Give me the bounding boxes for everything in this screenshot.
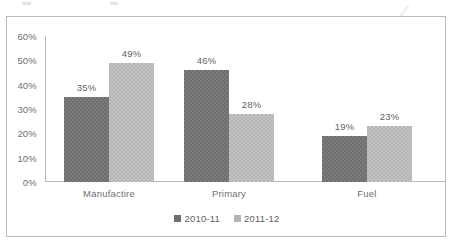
legend-item-2010-11[interactable]: 2010-11 — [174, 213, 220, 224]
y-axis-tick: 50% — [17, 55, 37, 66]
y-axis-tick: 0% — [23, 177, 37, 188]
y-axis-tick-labels: 60% 50% 40% 30% 20% 10% 0% — [7, 36, 43, 182]
category-label-manufactire: Manufactire — [83, 188, 135, 199]
bar-group-manufactire: 35% 49% — [64, 36, 154, 182]
bar-primary-2011-12[interactable]: 28% — [229, 114, 274, 182]
text-fragment-artifact — [22, 2, 31, 5]
plot-area: 35% 49% 46% 28% — [45, 36, 407, 182]
bar-primary-2010-11[interactable]: 46% — [184, 70, 229, 182]
chart-legend: 2010-11 2011-12 — [7, 213, 447, 224]
y-axis-tick: 30% — [17, 104, 37, 115]
bar-value-label: 49% — [122, 48, 142, 59]
y-axis-tick: 60% — [17, 31, 37, 42]
bar-fuel-2010-11[interactable]: 19% — [322, 136, 367, 182]
category-label-fuel: Fuel — [357, 188, 376, 199]
legend-swatch-icon — [234, 215, 241, 222]
legend-label: 2010-11 — [184, 213, 220, 224]
legend-label: 2011-12 — [244, 213, 280, 224]
bar-value-label: 46% — [197, 55, 217, 66]
bar-value-label: 19% — [335, 121, 355, 132]
x-axis-category-labels: Manufactire Primary Fuel — [46, 188, 407, 206]
bar-group-fuel: 19% 23% — [322, 36, 412, 182]
legend-swatch-icon — [174, 215, 181, 222]
y-axis-tick: 20% — [17, 128, 37, 139]
y-axis-tick: 10% — [17, 152, 37, 163]
scan-artifact-top — [0, 0, 453, 14]
bar-manufactire-2011-12[interactable]: 49% — [109, 63, 154, 182]
bar-group-primary: 46% 28% — [184, 36, 274, 182]
bar-fuel-2011-12[interactable]: 23% — [367, 126, 412, 182]
chart-frame: 60% 50% 40% 30% 20% 10% 0% 35% 49% — [6, 16, 446, 237]
bar-manufactire-2010-11[interactable]: 35% — [64, 97, 109, 182]
y-axis-tick: 40% — [17, 79, 37, 90]
bar-groups: 35% 49% 46% 28% — [46, 36, 407, 182]
bar-value-label: 28% — [242, 99, 262, 110]
bar-value-label: 35% — [77, 82, 97, 93]
legend-item-2011-12[interactable]: 2011-12 — [234, 213, 280, 224]
bar-value-label: 23% — [380, 111, 400, 122]
category-label-primary: Primary — [212, 188, 246, 199]
text-fragment-artifact — [110, 2, 118, 5]
